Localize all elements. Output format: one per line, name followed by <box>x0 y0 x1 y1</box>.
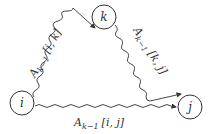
node-k-label: k <box>100 10 107 24</box>
edge-i-j <box>35 105 176 108</box>
node-i-label: i <box>20 96 24 110</box>
node-j: j <box>178 95 202 119</box>
svg-text:Ak−1[i, k]: Ak−1[i, k] <box>26 26 67 81</box>
edge-label-i-k: Ak−1[i, k] <box>26 26 67 81</box>
node-k: k <box>92 5 116 29</box>
edge-k-j <box>115 25 181 101</box>
edge-label-i-j: Ak−1[i, j] <box>73 116 125 131</box>
floyd-warshall-diagram: i k j Ak−1[i, k] Ak−1[k, j] Ak−1[i, j] <box>0 0 211 134</box>
edge-i-k <box>33 8 95 97</box>
node-i: i <box>10 91 34 115</box>
